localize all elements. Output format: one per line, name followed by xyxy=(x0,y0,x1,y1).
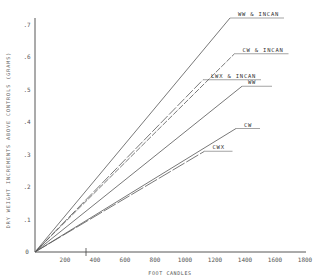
y-tick-label: .6 xyxy=(23,53,31,60)
series-line xyxy=(35,151,205,252)
x-tick-label: 1000 xyxy=(178,256,193,263)
x-tick-label: 1600 xyxy=(268,256,283,263)
y-axis-label: DRY WEIGHT INCREMENTS ABOVE CONTROLS (GR… xyxy=(5,52,11,228)
y-tick-label: .3 xyxy=(23,151,31,158)
y-tick-label: .1 xyxy=(23,216,31,223)
x-tick-label: 400 xyxy=(90,256,101,263)
x-tick-label: 800 xyxy=(150,256,161,263)
x-tick-label: 200 xyxy=(60,256,71,263)
series-label: LWX & INCAN xyxy=(211,73,256,79)
x-tick-label: 1200 xyxy=(208,256,223,263)
y-tick-label: .5 xyxy=(23,86,31,93)
series-line xyxy=(35,86,242,252)
series-label: CWX xyxy=(213,144,225,150)
x-tick-labels: 20040060080010001200140016001800 xyxy=(60,256,313,263)
y-tick-label: .2 xyxy=(23,183,31,190)
x-tick-label: 1800 xyxy=(298,256,313,263)
series-label: WW xyxy=(248,79,256,85)
y-tick-labels: 0.1.2.3.4.5.6.7 xyxy=(23,21,31,256)
series-line xyxy=(35,80,203,252)
x-tick-label: 1400 xyxy=(238,256,253,263)
series-line xyxy=(35,129,236,253)
series-line xyxy=(35,18,230,252)
data-series xyxy=(35,18,242,252)
y-tick-label: .7 xyxy=(23,21,31,28)
series-label: CW & INCAN xyxy=(243,47,284,53)
x-axis-label: FOOT CANDLES xyxy=(148,270,191,276)
series-line xyxy=(35,54,235,252)
y-tick-label: 0 xyxy=(25,248,29,255)
line-chart: 0.1.2.3.4.5.6.7 200400600800100012001400… xyxy=(0,0,326,279)
x-tick-label: 600 xyxy=(120,256,131,263)
y-tick-label: .4 xyxy=(23,118,31,125)
series-label: CW xyxy=(244,122,252,128)
series-labels: WW & INCANCW & INCANLWX & INCANWWCWCWX xyxy=(203,11,289,151)
series-label: WW & INCAN xyxy=(238,11,279,17)
